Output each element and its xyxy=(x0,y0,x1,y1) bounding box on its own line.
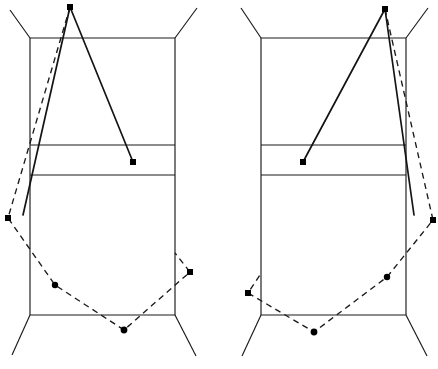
right-dash-vertex-2 xyxy=(384,274,390,280)
left-solid-end-dot xyxy=(130,159,136,165)
left-dash-vertex-2 xyxy=(52,282,58,288)
right-dash-vertex-1 xyxy=(430,217,436,223)
left-dash-vertex-3 xyxy=(121,327,128,334)
left-apex-dot xyxy=(67,4,73,10)
figure-background xyxy=(0,0,438,369)
right-dash-vertex-4 xyxy=(245,290,251,296)
right-apex-dot xyxy=(382,6,388,12)
left-dash-vertex-4 xyxy=(187,269,193,275)
left-dash-vertex-1 xyxy=(5,215,11,221)
right-dash-vertex-3 xyxy=(311,329,318,336)
stereo-diagram-figure xyxy=(0,0,438,369)
right-solid-end-dot xyxy=(300,159,306,165)
